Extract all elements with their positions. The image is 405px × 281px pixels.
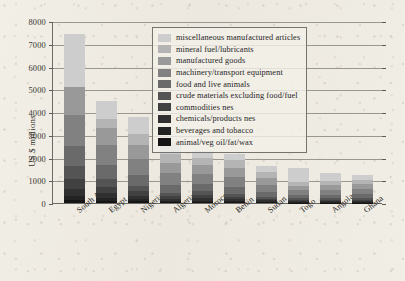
stacked-bar[interactable] xyxy=(96,101,117,203)
legend-label: mineral fuel/lubricants xyxy=(176,45,254,54)
bar-segment xyxy=(96,165,117,179)
bar-segment xyxy=(64,87,85,115)
bar-segment xyxy=(256,185,277,192)
bar-segment xyxy=(64,179,85,189)
bar-segment xyxy=(192,165,213,174)
bar-segment xyxy=(128,175,149,186)
y-axis-tick-label: 7000 xyxy=(28,40,46,49)
y-axis-tick-label: 2000 xyxy=(28,154,46,163)
legend-swatch xyxy=(158,127,171,135)
legend-label: chemicals/products nes xyxy=(176,114,255,123)
legend-item[interactable]: crude materials excluding food/fuel xyxy=(158,90,300,102)
legend-label: beverages and tobacco xyxy=(176,126,253,135)
legend-label: manufactured goods xyxy=(176,56,245,65)
stacked-bar[interactable] xyxy=(320,173,341,203)
bar-segment xyxy=(224,154,245,161)
y-axis-tick-right xyxy=(382,159,386,160)
legend-swatch xyxy=(158,103,171,111)
bar-column: Egypt xyxy=(91,22,123,203)
bar-column: South Africa xyxy=(59,22,91,203)
bar-column: Nigeria xyxy=(123,22,155,203)
bar-segment xyxy=(224,168,245,178)
bar-segment xyxy=(64,146,85,166)
stacked-bar[interactable] xyxy=(256,166,277,203)
legend-swatch xyxy=(158,92,171,100)
legend-item[interactable]: animal/veg oil/fat/wax xyxy=(158,136,300,148)
stacked-bar[interactable] xyxy=(352,175,373,203)
legend-label: machinery/transport equipment xyxy=(176,68,283,77)
y-axis-tick-label: 1000 xyxy=(28,177,46,186)
bar-segment xyxy=(320,173,341,181)
bar-segment xyxy=(224,187,245,194)
legend-label: food and live animals xyxy=(176,80,250,89)
bar-segment xyxy=(160,163,181,174)
bar-segment xyxy=(288,168,309,181)
y-axis-tick-right xyxy=(382,181,386,182)
y-axis-tick xyxy=(49,204,53,205)
legend-item[interactable]: manufactured goods xyxy=(158,55,300,67)
bar-segment xyxy=(64,166,85,179)
bar-segment xyxy=(128,145,149,159)
legend-label: commodities nes xyxy=(176,103,234,112)
bar-segment xyxy=(192,158,213,165)
bar-segment xyxy=(128,117,149,134)
bar-column: Angola xyxy=(314,22,346,203)
bar-segment xyxy=(192,174,213,184)
legend-swatch xyxy=(158,45,171,53)
legend-swatch xyxy=(158,80,171,88)
bar-segment xyxy=(96,101,117,119)
legend-item[interactable]: miscellaneous manufactured articles xyxy=(158,32,300,44)
bar-segment xyxy=(64,189,85,197)
bar-segment xyxy=(64,115,85,146)
stacked-bar[interactable] xyxy=(128,117,149,203)
y-axis-tick-label: 3000 xyxy=(28,131,46,140)
y-axis-tick-right xyxy=(382,90,386,91)
bar-segment xyxy=(128,159,149,175)
y-axis-tick-right xyxy=(382,68,386,69)
y-axis-tick-label: 0 xyxy=(42,200,46,209)
y-axis-tick-right xyxy=(382,204,386,205)
y-axis-tick-right xyxy=(382,113,386,114)
y-axis-tick-right xyxy=(382,22,386,23)
stacked-bar-chart: US $ millions 01000200030004000500060007… xyxy=(0,0,405,281)
stacked-bar[interactable] xyxy=(224,154,245,203)
bar-segment xyxy=(128,134,149,145)
bar-segment xyxy=(160,173,181,185)
legend-item[interactable]: commodities nes xyxy=(158,102,300,114)
bar-segment xyxy=(96,128,117,145)
bar-column: Ghana xyxy=(346,22,378,203)
bar-segment xyxy=(96,145,117,165)
stacked-bar[interactable] xyxy=(288,168,309,203)
y-axis-tick-label: 8000 xyxy=(28,18,46,27)
bar-segment xyxy=(224,160,245,168)
bar-segment xyxy=(224,177,245,187)
bar-segment xyxy=(160,154,181,162)
bar-segment xyxy=(96,119,117,128)
stacked-bar[interactable] xyxy=(64,34,85,203)
y-axis-tick-right xyxy=(382,45,386,46)
bar-segment xyxy=(64,34,85,87)
legend-swatch xyxy=(158,138,171,146)
y-axis-tick-label: 5000 xyxy=(28,86,46,95)
legend-item[interactable]: mineral fuel/lubricants xyxy=(158,44,300,56)
y-axis-tick-label: 4000 xyxy=(28,109,46,118)
y-axis-tick-right xyxy=(382,136,386,137)
legend-item[interactable]: chemicals/products nes xyxy=(158,113,300,125)
legend-item[interactable]: food and live animals xyxy=(158,78,300,90)
bar-segment xyxy=(96,179,117,187)
legend: miscellaneous manufactured articlesminer… xyxy=(152,27,307,153)
legend-label: animal/veg oil/fat/wax xyxy=(176,138,253,147)
legend-item[interactable]: machinery/transport equipment xyxy=(158,67,300,79)
legend-label: miscellaneous manufactured articles xyxy=(176,33,300,42)
legend-swatch xyxy=(158,34,171,42)
legend-swatch xyxy=(158,57,171,65)
legend-label: crude materials excluding food/fuel xyxy=(176,91,298,100)
legend-swatch xyxy=(158,69,171,77)
stacked-bar[interactable] xyxy=(192,151,213,203)
bar-segment xyxy=(160,185,181,193)
legend-swatch xyxy=(158,115,171,123)
legend-item[interactable]: beverages and tobacco xyxy=(158,125,300,137)
y-axis-tick-label: 6000 xyxy=(28,63,46,72)
bar-segment xyxy=(256,178,277,185)
bar-segment xyxy=(192,184,213,192)
